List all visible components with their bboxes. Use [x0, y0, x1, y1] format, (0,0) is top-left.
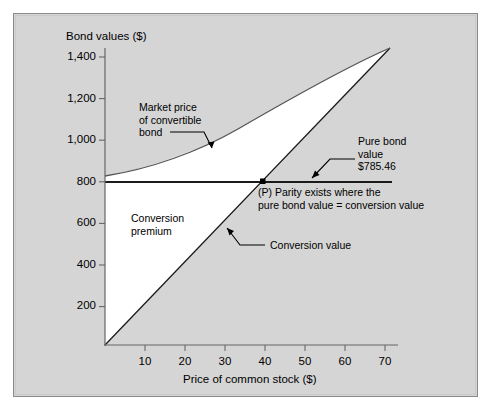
annotation-leader-conversion-value: [227, 228, 265, 245]
annotation-parity-line2: pure bond value = conversion value: [258, 199, 424, 212]
annotation-pure-bond-line1: Pure bond: [358, 135, 406, 148]
annotation-conversion-premium-line2: premium: [131, 225, 184, 238]
x-tick-label-10: 10: [130, 355, 160, 367]
y-tick-label-200: 200: [50, 299, 96, 311]
y-tick-label-1000: 1,000: [50, 133, 96, 145]
y-tick-label-1200: 1,200: [50, 92, 96, 104]
annotation-market-price-line2: of convertible: [139, 114, 201, 127]
x-axis-title: Price of common stock ($): [183, 373, 317, 385]
x-tick-label-50: 50: [290, 355, 320, 367]
y-axis-ticks: [99, 57, 105, 307]
annotation-pure-bond-line2: value: [358, 148, 406, 161]
x-tick-label-70: 70: [370, 355, 400, 367]
annotation-market-price-line1: Market price: [139, 101, 201, 114]
x-axis-ticks: [145, 345, 385, 351]
x-tick-label-20: 20: [170, 355, 200, 367]
y-tick-label-600: 600: [50, 216, 96, 228]
annotation-leader-pure-bond: [312, 159, 355, 178]
annotation-pure-bond-value: Pure bond value $785.46: [358, 135, 406, 173]
annotation-parity-line1: (P) Parity exists where the: [258, 186, 424, 199]
y-tick-label-1400: 1,400: [50, 50, 96, 62]
annotation-parity: (P) Parity exists where the pure bond va…: [258, 186, 424, 211]
annotation-conversion-premium-line1: Conversion: [131, 212, 184, 225]
annotation-market-price: Market price of convertible bond: [139, 101, 201, 139]
y-tick-label-800: 800: [50, 175, 96, 187]
x-tick-label-30: 30: [210, 355, 240, 367]
annotation-pure-bond-amount: $785.46: [358, 160, 406, 173]
annotation-market-price-line3: bond: [139, 126, 201, 139]
y-tick-label-400: 400: [50, 258, 96, 270]
x-tick-label-40: 40: [250, 355, 280, 367]
marker-parity-point: [260, 179, 266, 185]
x-tick-label-60: 60: [330, 355, 360, 367]
figure-root: Bond values ($) 1,400 1,200 1,000 800 60…: [0, 0, 491, 411]
annotation-conversion-premium: Conversion premium: [131, 212, 184, 237]
y-axis-title: Bond values ($): [66, 30, 147, 42]
annotation-conversion-value: Conversion value: [270, 239, 351, 252]
